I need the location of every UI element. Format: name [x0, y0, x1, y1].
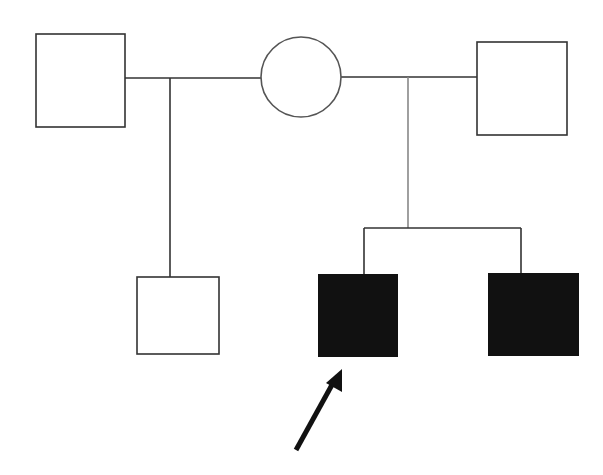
proband-arrow-icon [296, 369, 342, 450]
individual-I-1-male [36, 34, 125, 127]
pedigree-diagram [0, 0, 603, 475]
individual-I-2-female [261, 37, 341, 117]
individual-II-1-male [137, 277, 219, 354]
individual-I-3-male [477, 42, 567, 135]
individual-II-2-proband-affected [318, 274, 398, 357]
individual-II-3-affected [488, 273, 579, 356]
